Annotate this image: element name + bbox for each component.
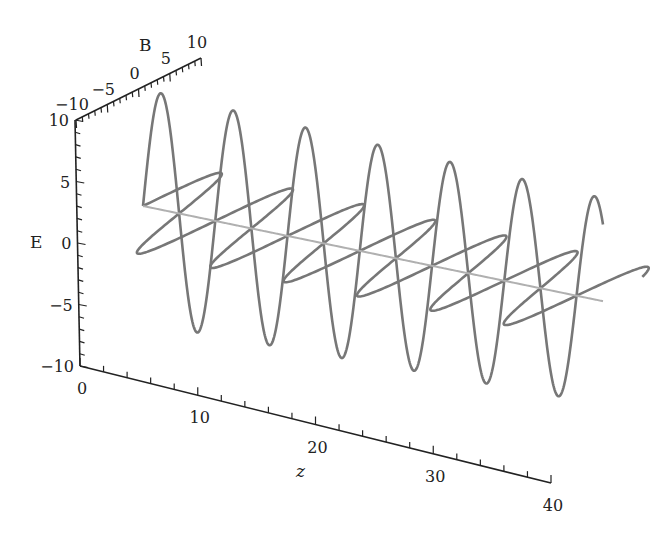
b-minor-tick (145, 86, 146, 91)
e-major-tick (78, 243, 86, 245)
b-major-tick (139, 89, 140, 97)
z-tick-label: 20 (307, 438, 327, 457)
b-minor-tick (89, 114, 90, 119)
e-tick-label: −5 (49, 296, 73, 315)
e-tick-label: −10 (40, 357, 74, 376)
b-axis-title: B (139, 35, 152, 55)
b-major-tick (107, 105, 108, 113)
chart-stage: −10−50510−10−50510010203040 B E z (0, 0, 660, 542)
b-major-tick (76, 120, 77, 128)
b-minor-tick (164, 77, 165, 82)
z-tick-label: 0 (77, 379, 87, 398)
z-tick-label: 10 (190, 408, 210, 427)
e-tick-label: 0 (61, 234, 71, 253)
e-major-tick (76, 182, 84, 184)
b-minor-tick (151, 83, 152, 88)
3d-wave-plot: −10−50510−10−50510010203040 B E z (0, 0, 660, 542)
b-minor-tick (114, 101, 115, 106)
e-major-tick (80, 366, 88, 368)
e-tick-label: 5 (60, 173, 70, 192)
b-minor-tick (132, 92, 133, 97)
b-minor-tick (189, 64, 190, 69)
b-tick-label: −10 (55, 95, 89, 114)
b-minor-tick (101, 108, 102, 113)
b-tick-label: 0 (129, 64, 139, 83)
b-tick-label: 10 (187, 33, 207, 52)
b-minor-tick (126, 95, 127, 100)
b-minor-tick (195, 61, 196, 66)
b-tick-label: 5 (161, 49, 171, 68)
axes-layer: −10−50510−10−50510010203040 (40, 33, 563, 515)
e-axis-title: E (30, 232, 42, 252)
z-tick-label: 40 (543, 496, 563, 515)
b-minor-tick (176, 70, 177, 75)
b-major-tick (170, 74, 171, 82)
b-minor-tick (95, 111, 96, 116)
z-tick-label: 30 (425, 467, 445, 486)
b-minor-tick (82, 117, 83, 122)
series-layer (137, 93, 649, 396)
z-axis-title: z (295, 461, 306, 481)
e-major-tick (79, 305, 87, 307)
b-tick-label: −5 (91, 80, 115, 99)
b-minor-tick (120, 98, 121, 103)
b-minor-tick (157, 80, 158, 85)
b-minor-tick (182, 67, 183, 72)
b-major-tick (201, 58, 202, 66)
b-field-wave (137, 173, 649, 325)
